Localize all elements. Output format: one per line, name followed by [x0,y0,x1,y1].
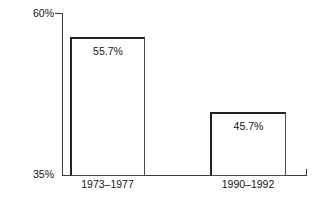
bar-1973-1977: 55.7% [70,37,145,176]
bar-1990-1992: 45.7% [210,112,286,176]
y-axis-tick-mark [55,13,62,14]
y-axis-tick-label-top: 60% [18,7,54,19]
bar-value-label: 45.7% [212,120,285,132]
y-axis-tick-label-bottom: 35% [18,168,54,180]
y-axis-line [62,13,63,176]
x-axis-category-label: 1973–1977 [70,178,145,190]
x-axis-category-label: 1990–1992 [210,178,286,190]
x-axis-tick-mark [306,169,307,175]
bar-chart: Percent complete 60% 35% 55.7% 45.7% 197… [0,0,313,200]
bar-value-label: 55.7% [72,45,144,57]
